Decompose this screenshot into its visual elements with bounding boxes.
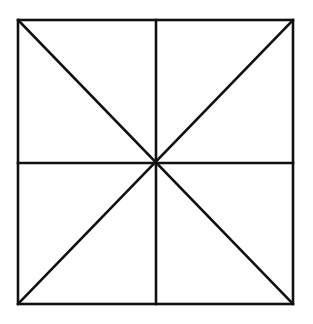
diagram-canvas xyxy=(0,0,313,324)
square-diagram xyxy=(0,0,313,324)
